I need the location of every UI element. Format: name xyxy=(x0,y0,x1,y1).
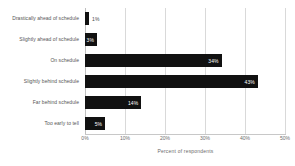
x-tick-label: 0% xyxy=(81,135,88,141)
category-label: Far behind schedule xyxy=(33,92,79,113)
bar[interactable]: 34% xyxy=(85,54,222,67)
category-label: On schedule xyxy=(50,50,79,71)
category-label: Slightly behind schedule xyxy=(24,71,79,92)
category-axis-labels: Drastically ahead of schedule Slightly a… xyxy=(0,8,82,134)
x-tick-label: 40% xyxy=(240,135,250,141)
x-tick-label: 20% xyxy=(160,135,170,141)
bar-row: 34% xyxy=(85,50,286,71)
category-label: Too early to tell xyxy=(45,113,79,134)
bar-value-label: 1% xyxy=(92,16,99,21)
x-axis-title: Percent of respondents xyxy=(85,148,286,154)
category-label: Drastically ahead of schedule xyxy=(12,8,79,29)
x-tick-label: 30% xyxy=(200,135,210,141)
bar[interactable]: 14% xyxy=(85,96,141,109)
bar-value-label: 43% xyxy=(245,79,255,84)
bar-value-label: 14% xyxy=(128,100,138,105)
bar-row: 5% xyxy=(85,113,286,134)
x-axis-ticks: 0% 10% 20% 30% 40% 50% xyxy=(85,135,286,145)
bar-row: 1% xyxy=(85,8,286,29)
bar-value-label: 34% xyxy=(208,58,218,63)
bar-row: 43% xyxy=(85,71,286,92)
bar[interactable]: 5% xyxy=(85,117,105,130)
bar-value-label: 5% xyxy=(95,121,102,126)
bar-chart: Drastically ahead of schedule Slightly a… xyxy=(0,0,295,166)
bar-row: 14% xyxy=(85,92,286,113)
bar-series: 1% 3% 34% 43% 14% xyxy=(85,8,286,134)
bar[interactable]: 3% xyxy=(85,33,97,46)
bar[interactable]: 1% xyxy=(85,12,89,25)
x-tick-label: 50% xyxy=(280,135,290,141)
bar[interactable]: 43% xyxy=(85,75,258,88)
bar-value-label: 3% xyxy=(87,37,94,42)
category-label: Slightly ahead of schedule xyxy=(19,29,79,50)
bar-row: 3% xyxy=(85,29,286,50)
plot-area: 1% 3% 34% 43% 14% xyxy=(85,8,286,134)
x-tick-label: 10% xyxy=(120,135,130,141)
